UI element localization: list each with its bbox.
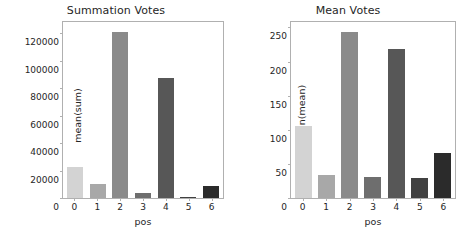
y-tick-label-mean-100: 100: [270, 134, 287, 143]
y-tick-mark-summation-20000: [60, 171, 63, 172]
y-tick-mark-mean-100: [288, 130, 291, 131]
plot-axes-summation: mean(sum) 020000400006000080000100000120…: [62, 21, 224, 199]
y-tick-label-mean-250: 250: [270, 32, 287, 41]
x-tick-mark-summation-4: [166, 198, 167, 201]
x-tick-mark-summation-6: [212, 198, 213, 201]
y-tick-label-summation-100000: 100000: [25, 65, 59, 74]
x-tick-mark-summation-5: [189, 198, 190, 201]
y-tick-label-summation-80000: 80000: [30, 93, 59, 102]
y-tick-mark-summation-100000: [60, 61, 63, 62]
y-tick-mark-summation-0: [60, 198, 63, 199]
bar-mean-3: [364, 177, 381, 198]
bar-mean-0: [295, 126, 312, 198]
y-tick-label-summation-120000: 120000: [25, 38, 59, 47]
y-tick-mark-mean-50: [288, 164, 291, 165]
x-tick-label-summation-4: 4: [163, 203, 169, 212]
x-tick-label-mean-2: 2: [347, 203, 353, 212]
x-tick-mark-summation-0: [74, 198, 75, 201]
x-tick-mark-mean-3: [373, 198, 374, 201]
y-tick-label-mean-150: 150: [270, 100, 287, 109]
bar-mean-1: [318, 175, 335, 198]
chart-title-summation: Summation Votes: [0, 4, 232, 17]
y-tick-label-summation-60000: 60000: [30, 120, 59, 129]
x-tick-label-summation-0: 0: [72, 203, 78, 212]
y-tick-label-summation-0: 0: [53, 203, 59, 212]
x-tick-mark-mean-2: [350, 198, 351, 201]
x-tick-label-mean-4: 4: [394, 203, 400, 212]
x-tick-mark-mean-1: [326, 198, 327, 201]
bar-mean-4: [388, 49, 405, 198]
x-tick-mark-summation-1: [97, 198, 98, 201]
chart-panel-mean: Mean Votes mean(mean) 050100150200250 01…: [232, 0, 464, 242]
bar-summation-4: [158, 78, 174, 198]
y-tick-mark-mean-250: [288, 27, 291, 28]
bar-summation-2: [112, 32, 128, 198]
x-tick-label-summation-2: 2: [117, 203, 123, 212]
y-tick-mark-summation-80000: [60, 88, 63, 89]
chart-title-mean: Mean Votes: [232, 4, 464, 17]
y-tick-mark-summation-120000: [60, 33, 63, 34]
y-tick-mark-mean-200: [288, 62, 291, 63]
x-tick-mark-summation-3: [143, 198, 144, 201]
y-tick-label-mean-200: 200: [270, 66, 287, 75]
x-axis-label-summation: pos: [63, 216, 223, 227]
x-tick-mark-mean-6: [443, 198, 444, 201]
bar-summation-1: [90, 184, 106, 198]
chart-panel-summation: Summation Votes mean(sum) 02000040000600…: [0, 0, 232, 242]
bar-mean-2: [341, 32, 358, 198]
bar-summation-0: [67, 167, 83, 198]
bar-mean-5: [411, 178, 428, 198]
x-tick-label-mean-0: 0: [300, 203, 306, 212]
x-tick-label-mean-6: 6: [440, 203, 446, 212]
y-tick-label-summation-20000: 20000: [30, 175, 59, 184]
y-tick-mark-summation-40000: [60, 143, 63, 144]
x-tick-label-summation-5: 5: [186, 203, 192, 212]
x-tick-label-mean-5: 5: [417, 203, 423, 212]
y-tick-label-summation-40000: 40000: [30, 148, 59, 157]
bar-series-summation: [63, 22, 223, 198]
x-tick-label-summation-1: 1: [94, 203, 100, 212]
bar-series-mean: [291, 22, 455, 198]
x-tick-mark-summation-2: [120, 198, 121, 201]
bar-summation-6: [203, 186, 219, 198]
y-tick-mark-mean-0: [288, 198, 291, 199]
x-tick-label-summation-6: 6: [209, 203, 215, 212]
x-tick-label-mean-1: 1: [323, 203, 329, 212]
figure-canvas: Summation Votes mean(sum) 02000040000600…: [0, 0, 464, 242]
x-tick-mark-mean-5: [420, 198, 421, 201]
x-tick-label-summation-3: 3: [140, 203, 146, 212]
y-tick-mark-summation-60000: [60, 116, 63, 117]
y-tick-label-mean-0: 0: [281, 203, 287, 212]
x-tick-mark-mean-4: [396, 198, 397, 201]
x-axis-label-mean: pos: [291, 216, 455, 227]
y-tick-mark-mean-150: [288, 96, 291, 97]
x-tick-label-mean-3: 3: [370, 203, 376, 212]
bar-mean-6: [434, 153, 451, 198]
y-tick-label-mean-50: 50: [276, 168, 287, 177]
plot-axes-mean: mean(mean) 050100150200250 0123456 pos: [290, 21, 456, 199]
x-tick-mark-mean-0: [303, 198, 304, 201]
